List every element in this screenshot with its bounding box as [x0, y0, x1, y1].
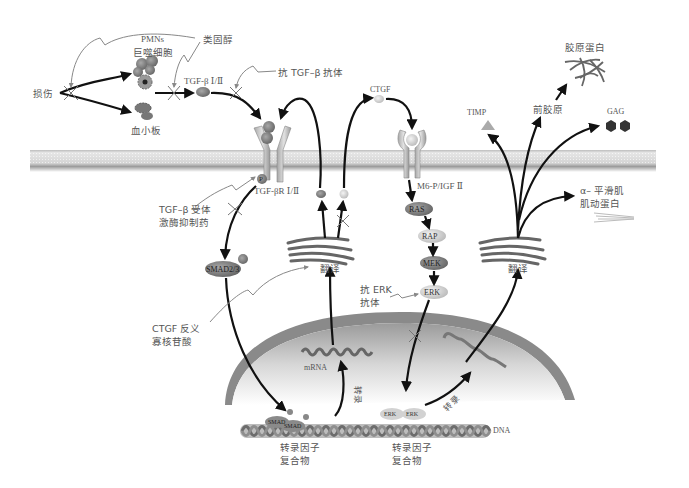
- arrow-to-asma: [518, 196, 573, 238]
- arrow-injury-to-platelets: [60, 93, 130, 112]
- ctgf-ligand: [374, 95, 384, 103]
- arrow-procollagen-to-collagen: [556, 85, 566, 100]
- label-mrna: mRNA: [304, 361, 327, 374]
- smad-phospho: [238, 254, 248, 264]
- label-erk: ERK: [424, 286, 440, 299]
- label-smad-dna-2: SMAD: [284, 420, 301, 433]
- steroid-inhibit-injury: [71, 34, 195, 87]
- label-macrophage: 巨噬细胞: [133, 46, 173, 59]
- label-anti-erk-line1: 抗 ERK: [360, 283, 392, 296]
- label-steroid: 类固醇: [203, 33, 233, 46]
- ribosome-left: [288, 238, 353, 264]
- label-tf-complex-left-1: 转录因子: [280, 441, 320, 454]
- ribosome-right: [480, 238, 545, 264]
- label-smad: SMAD2/3: [206, 263, 239, 276]
- label-collagen: 胶原蛋白: [565, 41, 605, 54]
- label-rap: RAP: [422, 230, 438, 243]
- label-timp: TIMP: [467, 106, 486, 119]
- tgf-beta-product: [316, 190, 326, 198]
- label-mek: MEK: [423, 257, 441, 270]
- platelet-cells: [135, 103, 153, 120]
- label-tgfbr-inhibitor-line1: TGF–β 受体: [159, 203, 211, 216]
- label-tf-complex-left-2: 复合物: [280, 454, 310, 467]
- diagram-graphics: [0, 0, 689, 488]
- label-anti-tgfb-antibody: 抗 TGF–β 抗体: [278, 66, 343, 79]
- label-translation-left: 翻译: [320, 262, 340, 275]
- smooth-muscle-actin-fibers: [594, 213, 634, 222]
- anti-erk-line: [390, 294, 418, 298]
- label-tf-complex-right-2: 复合物: [392, 454, 422, 467]
- arrow-ctgf-to-m6p: [386, 99, 412, 128]
- label-transcription-left: 转录: [351, 386, 364, 404]
- tgf-beta-ligand: [196, 87, 210, 97]
- label-injury: 损伤: [33, 87, 53, 100]
- label-m6p-igf2: M6-P/IGF Ⅱ: [417, 180, 463, 193]
- label-ctgf: CTGF: [370, 83, 390, 96]
- mapk-cascade: [405, 202, 448, 299]
- arrow-receptor-to-smad: [225, 186, 256, 258]
- label-tgfbr: TGF-βR Ⅰ/Ⅱ: [254, 185, 299, 198]
- label-smad-dna-1: SMAD: [268, 416, 285, 429]
- arrow-ras-to-rap: [425, 216, 429, 228]
- tgf-beta-ctgf-fibrosis-pathway-diagram: 损伤 PMNs 巨噬细胞 血小板 类固醇 TGF-β Ⅰ/Ⅱ 抗 TGF–β 抗…: [0, 0, 689, 488]
- label-gag: GAG: [607, 105, 624, 118]
- collagen-fibers: [565, 58, 605, 86]
- arrow-to-ctgf: [344, 98, 372, 188]
- label-translation-right: 翻译: [508, 262, 528, 275]
- label-procollagen: 前胶原: [533, 103, 563, 116]
- pmn-macrophage-cells: [133, 55, 158, 89]
- label-tgfb: TGF-β Ⅰ/Ⅱ: [184, 75, 223, 88]
- cell-membrane: [30, 150, 656, 172]
- label-anti-erk-line2: 抗体: [360, 296, 380, 309]
- label-platelet: 血小板: [131, 124, 161, 137]
- ctgf-product: [340, 190, 349, 199]
- arrow-injury-to-pmns: [60, 74, 130, 93]
- gag-hexagons: [606, 120, 630, 132]
- arrow-m6p-to-ras: [409, 180, 412, 200]
- nucleus: [225, 312, 575, 405]
- label-tgfbr-inhibitor-line2: 激酶抑制药: [159, 216, 209, 229]
- label-ras: RAS: [409, 203, 425, 216]
- label-ctgf-antisense-line1: CTGF 反义: [152, 322, 200, 335]
- arrow-translation-to-receptor: [281, 99, 321, 188]
- arrow-tgfb-to-receptor: [211, 93, 260, 118]
- label-ctgf-antisense-line2: 寡核苷酸: [152, 335, 192, 348]
- label-pmns: PMNs: [141, 33, 164, 46]
- anti-tgfb-inhibit: [236, 66, 276, 88]
- label-erk-dna-1: ERK: [384, 408, 396, 421]
- label-tf-complex-right-1: 转录因子: [392, 441, 432, 454]
- arrow-translation-to-tgfb: [322, 202, 325, 238]
- timp-triangle: [481, 120, 495, 130]
- tgfbr-inhibitor-line: [196, 177, 255, 206]
- label-phospho: P: [259, 173, 263, 186]
- label-dna: DNA: [493, 424, 510, 437]
- label-erk-dna-2: ERK: [406, 408, 418, 421]
- label-asma-line1: α– 平滑肌: [580, 184, 624, 197]
- label-asma-line2: 肌动蛋白: [580, 197, 620, 210]
